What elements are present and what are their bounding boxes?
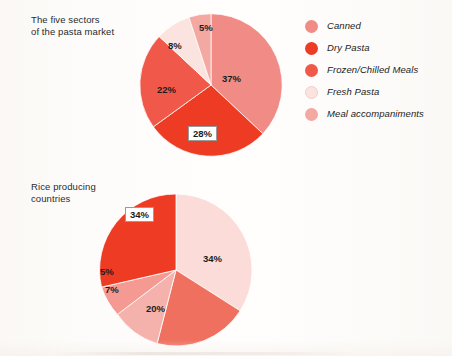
legend-swatch-dry-pasta <box>305 42 318 55</box>
legend-label-frozen-chilled-meals: Frozen/Chilled Meals <box>327 64 418 76</box>
pasta-slice-value-fresh-pasta: 8% <box>168 40 182 51</box>
rice-slice-value-rest-of-world: 34% <box>125 207 154 222</box>
rice-producing-countries-chart: Rice producing countries Japan, Thailand… <box>0 178 452 356</box>
pasta-legend: Canned Dry Pasta Frozen/Chilled Meals Fr… <box>305 20 424 130</box>
legend-item-frozen-chilled-meals[interactable]: Frozen/Chilled Meals <box>305 64 424 77</box>
legend-item-canned[interactable]: Canned <box>305 20 424 33</box>
pasta-slice-value-frozen-chilled: 22% <box>157 84 176 95</box>
legend-label-canned: Canned <box>327 20 361 32</box>
legend-item-fresh-pasta[interactable]: Fresh Pasta <box>305 86 424 99</box>
legend-label-dry-pasta: Dry Pasta <box>327 42 370 54</box>
legend-swatch-fresh-pasta <box>305 86 318 99</box>
pasta-slice-value-meal-accompaniments: 5% <box>199 22 213 33</box>
legend-swatch-frozen-chilled-meals <box>305 64 318 77</box>
legend-label-fresh-pasta: Fresh Pasta <box>327 86 379 98</box>
pasta-market-chart: The five sectors of the pasta market Can… <box>0 0 452 178</box>
rice-slice-value-indonesia: 7% <box>105 284 119 295</box>
rice-chart-title: Rice producing countries <box>31 181 96 204</box>
legend-item-meal-accompaniments[interactable]: Meal accompaniments <box>305 108 424 121</box>
pasta-slice-value-dry-pasta: 28% <box>188 126 217 141</box>
pasta-chart-title: The five sectors of the pasta market <box>31 14 114 37</box>
rice-slice-value-bangladesh: 5% <box>100 266 114 277</box>
rice-pie-svg <box>96 190 256 350</box>
rice-pie-graphic <box>96 190 256 350</box>
rice-slice-value-india: 20% <box>146 303 165 314</box>
legend-item-dry-pasta[interactable]: Dry Pasta <box>305 42 424 55</box>
legend-label-meal-accompaniments: Meal accompaniments <box>327 108 424 120</box>
page-root: The five sectors of the pasta market Can… <box>0 0 452 356</box>
pasta-slice-value-canned: 37% <box>222 73 241 84</box>
legend-swatch-meal-accompaniments <box>305 108 318 121</box>
rice-slice-value-china: 34% <box>203 253 222 264</box>
legend-swatch-canned <box>305 20 318 33</box>
